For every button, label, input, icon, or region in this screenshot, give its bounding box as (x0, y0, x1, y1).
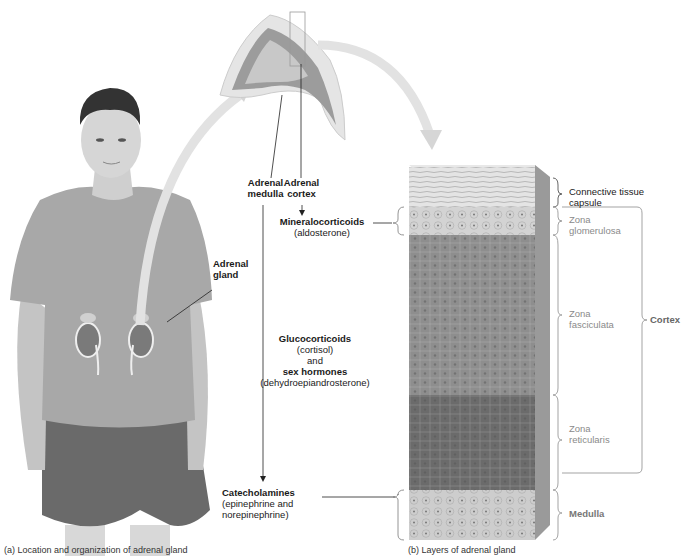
catecholamines-example-2: norepinephrine) (222, 509, 295, 520)
catecholamines-example-1: (epinephrine and (222, 498, 295, 509)
adrenal-cortex-line2: cortex (279, 188, 324, 199)
mineralocorticoids-example: (aldosterone) (270, 227, 374, 238)
adrenal-illustration (0, 0, 689, 556)
layer-fasciculata-line1: Zona (569, 308, 614, 319)
layer-fasciculata-label: Zona fasciculata (569, 308, 614, 330)
layer-fasciculata-line2: fasciculata (569, 319, 614, 330)
layer-glomerulosa-line2: glomerulosa (569, 225, 621, 236)
tissue-block (409, 165, 550, 540)
cortex-group-label: Cortex (650, 314, 680, 325)
layer-reticularis-line1: Zona (569, 423, 610, 434)
adrenal-gland-line2: gland (213, 269, 248, 280)
layer-glomerulosa-line1: Zona (569, 214, 621, 225)
adrenal-cross-section (220, 12, 345, 140)
sex-hormones-example: (dehydroepiandrosterone) (250, 377, 380, 388)
layer-reticularis-label: Zona reticularis (569, 423, 610, 445)
adrenal-gland-line1: Adrenal (213, 258, 248, 269)
sex-hormones-title: sex hormones (250, 366, 380, 377)
layer-medulla-label: Medulla (569, 508, 604, 519)
mineralocorticoids-label: Mineralocorticoids (aldosterone) (270, 216, 374, 238)
catecholamines-label: Catecholamines (epinephrine and norepine… (222, 487, 295, 520)
layer-capsule-line2: capsule (569, 197, 644, 208)
adrenal-cortex-label: Adrenal cortex (279, 177, 324, 199)
adrenal-cortex-line1: Adrenal (279, 177, 324, 188)
glucocorticoids-conj: and (250, 355, 380, 366)
layer-capsule-label: Connective tissue capsule (569, 186, 644, 208)
caption-left: (a) Location and organization of adrenal… (4, 545, 244, 556)
layer-glomerulosa-label: Zona glomerulosa (569, 214, 621, 236)
catecholamines-title: Catecholamines (222, 487, 295, 498)
glucocorticoids-label: Glucocorticoids (cortisol) and sex hormo… (250, 333, 380, 388)
glucocorticoids-example: (cortisol) (250, 344, 380, 355)
layer-reticularis-line2: reticularis (569, 434, 610, 445)
caption-right: (b) Layers of adrenal gland (408, 545, 588, 556)
layer-capsule-line1: Connective tissue (569, 186, 644, 197)
adrenal-gland-label: Adrenal gland (213, 258, 248, 280)
mineralocorticoids-title: Mineralocorticoids (270, 216, 374, 227)
glucocorticoids-title: Glucocorticoids (250, 333, 380, 344)
